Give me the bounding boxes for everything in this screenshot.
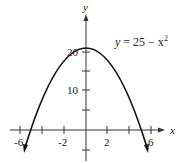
x-tick-label-2: 2 xyxy=(104,137,110,148)
y-tick-label-10: 10 xyxy=(67,85,78,96)
x-axis-arrow-icon xyxy=(158,128,165,133)
y-axis-label: y xyxy=(83,2,88,13)
x-tick-label-6: 6 xyxy=(148,137,154,148)
x-tick-label-neg2: -2 xyxy=(58,137,67,148)
curve-left-arrow-icon xyxy=(23,144,28,153)
equation-label: y = 25 − x2 xyxy=(115,35,168,48)
x-tick-label-neg6: -6 xyxy=(14,137,23,148)
y-tick-label-20: 20 xyxy=(67,47,78,58)
y-axis-arrow-icon xyxy=(84,14,89,21)
x-axis-label: x xyxy=(170,125,175,136)
chart-plot xyxy=(0,0,182,163)
